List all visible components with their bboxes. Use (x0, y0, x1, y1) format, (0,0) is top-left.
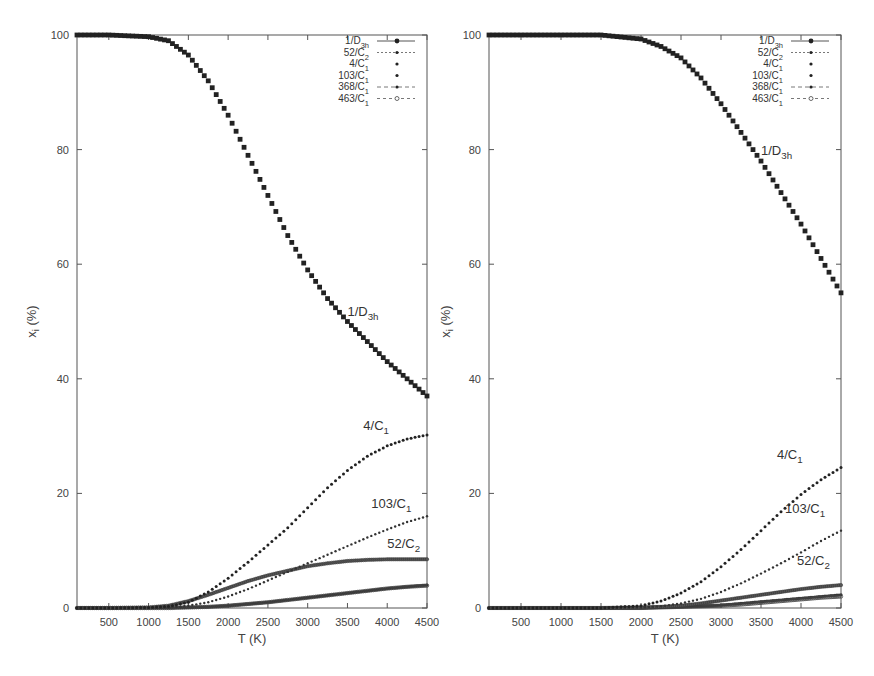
y-tick-label: 100 (463, 29, 481, 41)
y-tick-label: 100 (51, 29, 69, 41)
chart-figure: 50010001500200025003000350040004500T (K)… (0, 0, 874, 676)
plot-frame (489, 35, 841, 608)
curve-label: 1/D3h (347, 304, 378, 322)
x-tick-label: 3000 (709, 616, 733, 628)
legend-entry-label: 463/C1 (752, 93, 783, 108)
y-tick-label: 40 (57, 373, 69, 385)
x-tick-label: 2000 (629, 616, 653, 628)
series-1-d3h (75, 33, 430, 399)
x-tick-label: 3500 (749, 616, 773, 628)
y-tick-label: 20 (469, 487, 481, 499)
x-tick-label: 500 (512, 616, 530, 628)
x-tick-label: 2500 (256, 616, 280, 628)
x-tick-label: 4500 (829, 616, 853, 628)
x-tick-label: 1500 (176, 616, 200, 628)
x-tick-label: 3500 (335, 616, 359, 628)
y-tick-label: 60 (57, 258, 69, 270)
x-tick-label: 4000 (375, 616, 399, 628)
y-tick-label: 0 (475, 602, 481, 614)
x-axis: 50010001500200025003000350040004500 (512, 35, 853, 628)
series-4-c1 (488, 466, 843, 609)
legend: 1/D3h52/C24/C1103/C1368/C1463/C1 (338, 35, 415, 108)
curve-label: 4/C1 (363, 418, 389, 436)
series-103-c1 (488, 529, 842, 609)
y-tick-label: 40 (469, 373, 481, 385)
series-4-c1 (76, 433, 429, 609)
curve-label: 52/C2 (797, 553, 830, 571)
x-tick-label: 3000 (295, 616, 319, 628)
x-tick-label: 1500 (589, 616, 613, 628)
right-chart-panel: 50010001500200025003000350040004500T (K)… (438, 29, 853, 646)
y-tick-label: 60 (469, 258, 481, 270)
y-tick-label: 0 (63, 602, 69, 614)
legend: 1/D3h52/C24/C1103/C1368/C1463/C1 (752, 35, 829, 108)
x-axis-label: T (K) (238, 631, 267, 646)
x-tick-label: 500 (100, 616, 118, 628)
y-axis-label: xi (%) (438, 305, 455, 337)
curve-label: 1/D3h (761, 143, 792, 161)
x-tick-label: 4000 (789, 616, 813, 628)
curve-label: 103/C1 (371, 496, 411, 514)
x-tick-label: 2500 (669, 616, 693, 628)
y-tick-label: 80 (469, 144, 481, 156)
left-chart-panel: 50010001500200025003000350040004500T (K)… (24, 29, 439, 646)
x-tick-label: 2000 (216, 616, 240, 628)
curve-label: 103/C1 (785, 501, 825, 519)
legend-entry-label: 463/C1 (338, 93, 369, 108)
y-axis: 020406080100 (463, 29, 841, 614)
curve-label: 4/C1 (777, 447, 803, 465)
series-103-c1 (76, 515, 428, 609)
curve-label: 52/C2 (387, 536, 420, 554)
x-tick-label: 1000 (549, 616, 573, 628)
series-1-d3h (487, 33, 844, 296)
y-axis-label: xi (%) (24, 305, 41, 337)
y-tick-label: 80 (57, 144, 69, 156)
x-axis-label: T (K) (651, 631, 680, 646)
x-tick-label: 1000 (136, 616, 160, 628)
y-tick-label: 20 (57, 487, 69, 499)
x-tick-label: 4500 (415, 616, 439, 628)
